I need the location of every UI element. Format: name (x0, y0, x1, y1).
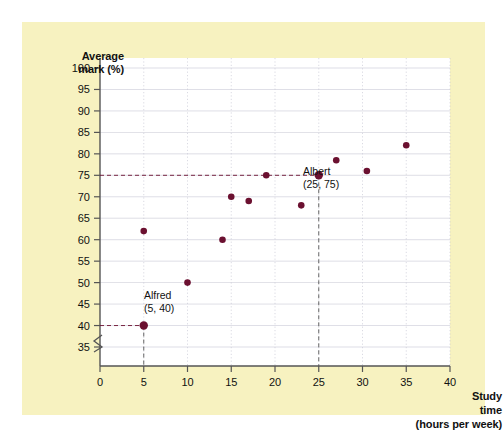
svg-text:Albert: Albert (303, 165, 331, 177)
svg-text:35: 35 (78, 341, 90, 353)
svg-text:45: 45 (78, 298, 90, 310)
y-axis-title-line2: mark (%) (62, 63, 124, 76)
svg-text:10: 10 (181, 376, 193, 388)
svg-text:Alfred: Alfred (144, 289, 172, 301)
svg-text:50: 50 (78, 277, 90, 289)
svg-text:5: 5 (141, 376, 147, 388)
svg-text:25: 25 (313, 376, 325, 388)
svg-text:85: 85 (78, 126, 90, 138)
chart-panel: 3540455055606570758085909510005101520253… (22, 22, 485, 415)
svg-text:95: 95 (78, 83, 90, 95)
svg-text:35: 35 (400, 376, 412, 388)
svg-text:60: 60 (78, 234, 90, 246)
svg-text:75: 75 (78, 169, 90, 181)
svg-text:40: 40 (444, 376, 456, 388)
svg-text:55: 55 (78, 255, 90, 267)
svg-text:20: 20 (269, 376, 281, 388)
svg-text:30: 30 (356, 376, 368, 388)
svg-text:80: 80 (78, 148, 90, 160)
x-axis-title-line2: time (352, 403, 502, 417)
svg-text:70: 70 (78, 191, 90, 203)
y-axis-title-line1: Average (62, 50, 124, 63)
svg-text:(5, 40): (5, 40) (144, 302, 174, 314)
svg-text:15: 15 (225, 376, 237, 388)
svg-text:(25, 75): (25, 75) (303, 178, 339, 190)
svg-text:90: 90 (78, 105, 90, 117)
x-axis-title: Study time (hours per week) (352, 389, 502, 431)
figure-canvas: 3540455055606570758085909510005101520253… (0, 0, 503, 440)
x-axis-title-line3: (hours per week) (352, 417, 502, 431)
svg-text:0: 0 (97, 376, 103, 388)
svg-text:40: 40 (78, 320, 90, 332)
scatter-plot: 3540455055606570758085909510005101520253… (22, 22, 485, 415)
y-axis-title: Average mark (%) (62, 50, 124, 76)
svg-text:65: 65 (78, 212, 90, 224)
x-axis-title-line1: Study (352, 389, 502, 403)
